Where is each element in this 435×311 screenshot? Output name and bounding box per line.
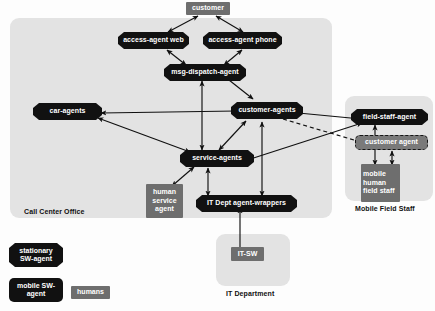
node-service-agents[interactable]: service-agents <box>180 150 254 167</box>
node-human-service-agent[interactable]: human service agent <box>146 184 183 218</box>
panel-label-it-department: IT Department <box>226 290 274 297</box>
node-mobile-human-field-staff[interactable]: mobile human field staff <box>361 164 400 202</box>
legend-item-stationary-sw-agent: stationary SW-agent <box>9 243 63 267</box>
node-customer-agent-mobile[interactable]: customer agent <box>355 135 428 150</box>
node-customer-agents[interactable]: customer-agents <box>231 102 303 119</box>
node-car-agents[interactable]: car-agents <box>33 103 102 120</box>
node-it-sw[interactable]: IT-SW <box>231 247 264 261</box>
node-msg-dispatch-agent[interactable]: msg-dispatch-agent <box>164 64 246 81</box>
panel-label-mobile-field-staff: Mobile Field Staff <box>355 205 415 212</box>
node-field-staff-agent[interactable]: field-staff-agent <box>351 109 428 125</box>
diagram-canvas: Call Center Office Mobile Field Staff IT… <box>0 0 435 311</box>
node-access-agent-web[interactable]: access-agent web <box>118 32 189 49</box>
node-customer[interactable]: customer <box>186 2 230 15</box>
legend-item-humans: humans <box>71 286 110 299</box>
node-it-dept-agent-wrappers[interactable]: IT Dept agent-wrappers <box>196 195 297 212</box>
legend: stationary SW-agent mobile SW-agent huma… <box>6 240 146 308</box>
legend-item-mobile-sw-agent: mobile SW-agent <box>9 278 63 302</box>
node-access-agent-phone[interactable]: access-agent phone <box>203 32 282 49</box>
panel-label-call-center-office: Call Center Office <box>24 208 85 215</box>
